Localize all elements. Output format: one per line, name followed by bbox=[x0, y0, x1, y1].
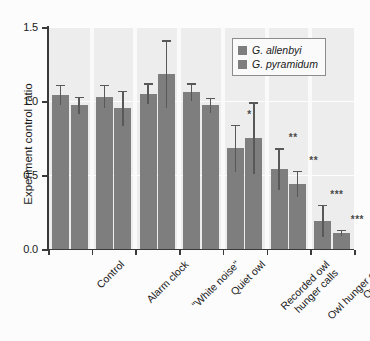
error-bar-cap bbox=[318, 205, 327, 206]
legend-item-label: G. allenbyi bbox=[252, 44, 302, 56]
significance-marker: *** bbox=[351, 214, 364, 225]
x-tick-mark bbox=[135, 250, 137, 255]
x-tick-mark bbox=[223, 250, 225, 255]
bar bbox=[202, 105, 219, 249]
y-tick-mark bbox=[42, 175, 48, 177]
y-tick-label: 0.0 bbox=[0, 243, 38, 255]
y-tick-mark bbox=[42, 101, 48, 103]
y-axis-title: Experiment control ratio bbox=[22, 54, 34, 234]
legend-item: G. pyramidum bbox=[238, 57, 318, 71]
bar bbox=[183, 92, 200, 249]
error-bar-cap bbox=[144, 83, 153, 84]
chart-figure: 0.00.51.01.5 Experiment control ratio Co… bbox=[0, 0, 370, 341]
bar bbox=[96, 97, 113, 249]
error-bar-cap bbox=[118, 91, 127, 92]
group-separator bbox=[90, 27, 94, 249]
bar bbox=[114, 108, 131, 249]
significance-marker: * bbox=[247, 109, 251, 120]
error-bar-cap bbox=[337, 230, 346, 231]
group-separator bbox=[221, 27, 225, 249]
legend-swatch-icon bbox=[238, 60, 247, 69]
error-bar bbox=[322, 205, 323, 238]
legend-item: G. allenbyi bbox=[238, 43, 318, 57]
group-separator bbox=[177, 27, 181, 249]
error-bar bbox=[147, 83, 148, 104]
bar bbox=[52, 95, 69, 249]
significance-marker: ** bbox=[309, 155, 318, 166]
chart-legend: G. allenbyi G. pyramidum bbox=[232, 38, 326, 76]
error-bar bbox=[278, 148, 279, 189]
error-bar bbox=[253, 102, 254, 173]
error-bar-cap bbox=[275, 148, 284, 149]
error-bar-cap bbox=[249, 102, 258, 103]
y-axis-line bbox=[47, 26, 49, 250]
legend-item-label: G. pyramidum bbox=[252, 58, 318, 70]
error-bar bbox=[60, 85, 61, 106]
error-bar bbox=[235, 125, 236, 172]
x-tick-mark bbox=[92, 250, 94, 255]
error-bar bbox=[166, 40, 167, 108]
x-tick-label: Alarm clock bbox=[143, 258, 190, 305]
bar bbox=[140, 94, 157, 249]
error-bar-cap bbox=[231, 125, 240, 126]
error-bar-cap bbox=[100, 85, 109, 86]
bar bbox=[71, 105, 88, 249]
legend-swatch-icon bbox=[238, 46, 247, 55]
y-tick-label: 1.5 bbox=[0, 21, 38, 33]
error-bar bbox=[297, 171, 298, 198]
x-tick-mark bbox=[48, 250, 50, 255]
error-bar bbox=[122, 91, 123, 127]
error-bar-cap bbox=[75, 97, 84, 98]
error-bar-cap bbox=[187, 83, 196, 84]
x-tick-label: Control bbox=[94, 258, 126, 290]
error-bar-cap bbox=[56, 85, 65, 86]
error-bar bbox=[210, 98, 211, 113]
error-bar-cap bbox=[206, 98, 215, 99]
x-tick-mark bbox=[310, 250, 312, 255]
error-bar-cap bbox=[162, 40, 171, 41]
error-bar bbox=[191, 83, 192, 101]
y-tick-mark bbox=[42, 27, 48, 29]
x-tick-mark bbox=[354, 250, 356, 255]
significance-marker: *** bbox=[330, 189, 343, 200]
error-bar bbox=[104, 85, 105, 109]
significance-marker: ** bbox=[289, 132, 298, 143]
error-bar-cap bbox=[293, 171, 302, 172]
x-tick-mark bbox=[179, 250, 181, 255]
x-tick-mark bbox=[267, 250, 269, 255]
error-bar bbox=[78, 97, 79, 115]
group-separator bbox=[133, 27, 137, 249]
